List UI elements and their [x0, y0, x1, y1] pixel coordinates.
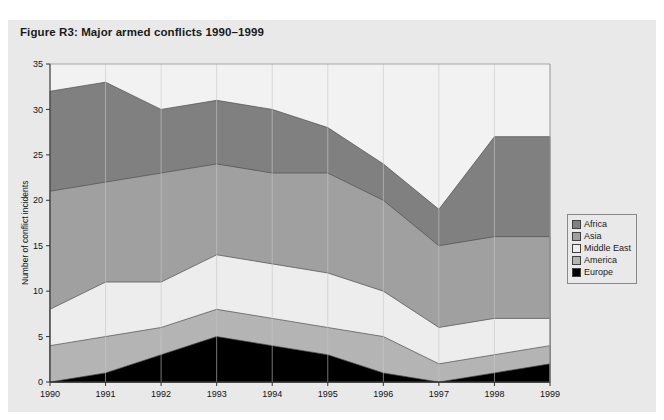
legend-item-asia[interactable]: Asia — [572, 231, 631, 242]
legend-item-middle-east[interactable]: Middle East — [572, 243, 631, 254]
legend-item-africa[interactable]: Africa — [572, 219, 631, 230]
x-axis-tick-label: 1994 — [262, 389, 282, 399]
legend-item-america[interactable]: America — [572, 255, 631, 266]
legend-swatch-icon — [572, 220, 581, 229]
y-axis-tick-label: 25 — [33, 150, 43, 160]
legend-item-label: Africa — [584, 220, 607, 229]
legend-swatch-icon — [572, 244, 581, 253]
y-axis-tick-label: 20 — [33, 195, 43, 205]
x-axis-tick-label: 1997 — [429, 389, 449, 399]
y-axis-tick-label: 15 — [33, 241, 43, 251]
stacked-area-chart: 0510152025303519901991199219931994199519… — [8, 44, 656, 412]
legend-swatch-icon — [572, 268, 581, 277]
legend-item-europe[interactable]: Europe — [572, 267, 631, 278]
legend-item-label: Middle East — [584, 244, 631, 253]
y-axis-tick-label: 30 — [33, 105, 43, 115]
legend-swatch-icon — [572, 256, 581, 265]
legend-item-label: America — [584, 256, 617, 265]
y-axis-tick-label: 10 — [33, 286, 43, 296]
chart-area: 0510152025303519901991199219931994199519… — [8, 44, 656, 412]
x-axis-tick-label: 1991 — [96, 389, 116, 399]
y-axis-tick-label: 5 — [38, 332, 43, 342]
y-axis-tick-label: 0 — [38, 377, 43, 387]
x-axis-tick-label: 1995 — [318, 389, 338, 399]
legend-swatch-icon — [572, 232, 581, 241]
x-axis-tick-label: 1990 — [40, 389, 60, 399]
figure-caption: Figure R3: Major armed conflicts 1990–19… — [20, 26, 264, 38]
x-axis-tick-label: 1996 — [373, 389, 393, 399]
figure-panel: Figure R3: Major armed conflicts 1990–19… — [8, 20, 656, 412]
legend-item-label: Europe — [584, 268, 613, 277]
x-axis-tick-label: 1999 — [540, 389, 560, 399]
y-axis-tick-label: 35 — [33, 59, 43, 69]
y-axis-title: Number of conflict incidents — [20, 181, 30, 285]
legend-item-label: Asia — [584, 232, 602, 241]
x-axis-tick-label: 1998 — [484, 389, 504, 399]
x-axis-tick-label: 1993 — [207, 389, 227, 399]
x-axis-tick-label: 1992 — [151, 389, 171, 399]
chart-legend: AfricaAsiaMiddle EastAmericaEurope — [567, 214, 637, 284]
